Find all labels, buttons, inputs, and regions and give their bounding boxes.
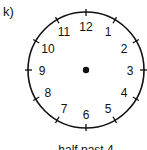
numeral-11: 11: [58, 25, 71, 39]
numeral-9: 9: [39, 64, 46, 78]
numeral-1: 1: [105, 25, 112, 39]
numeral-5: 5: [105, 102, 112, 116]
time-caption: half past 4: [0, 143, 147, 150]
center-dot: [83, 67, 89, 73]
numeral-4: 4: [121, 86, 128, 100]
numeral-7: 7: [61, 102, 68, 116]
numeral-12: 12: [79, 20, 93, 34]
numeral-8: 8: [45, 86, 52, 100]
numeral-6: 6: [83, 108, 90, 122]
numeral-3: 3: [127, 64, 134, 78]
numeral-2: 2: [121, 42, 128, 56]
clock-face: 121234567891011: [0, 0, 147, 150]
numeral-10: 10: [41, 42, 55, 56]
